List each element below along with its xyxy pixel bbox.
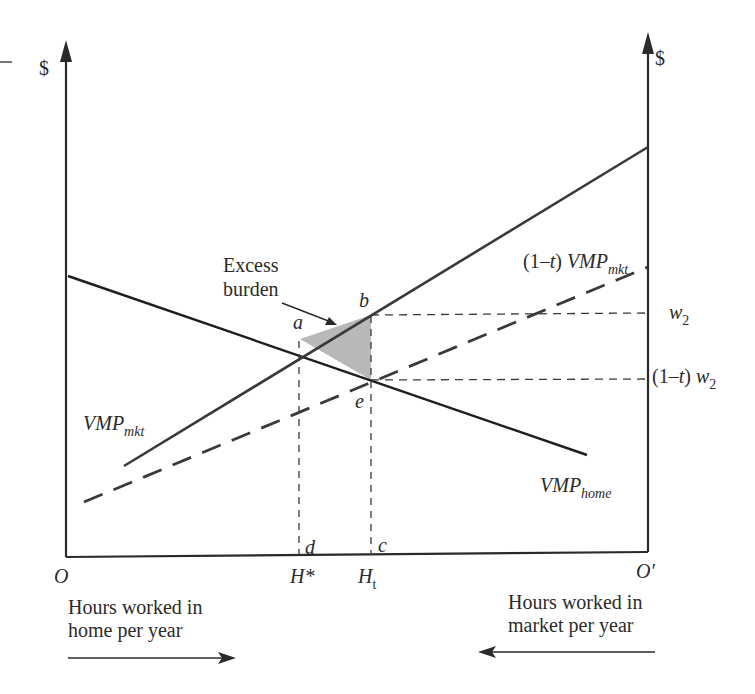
after-tax-w2-guideline [371, 379, 646, 380]
x-axis-baseline [66, 552, 648, 557]
excess-burden-label-line1: Excess [223, 255, 279, 275]
vmp-home-label: VMPhome [540, 475, 611, 495]
market-hours-label-line1: Hours worked in [508, 592, 642, 612]
w2-label: w2 [669, 302, 689, 322]
h-star-label: H* [290, 566, 314, 586]
excess-burden-label-line2: burden [223, 279, 279, 299]
vmp-mkt-label: VMPmkt [83, 413, 144, 433]
market-hours-label-line2: market per year [508, 615, 633, 635]
left-y-axis [60, 40, 72, 557]
after-tax-w2-label: (1–t) w2 [652, 366, 716, 386]
diagram-canvas [0, 0, 755, 694]
origin-left-label: O [54, 566, 68, 586]
home-hours-label-line1: Hours worked in [68, 597, 202, 617]
right-axis-dollar-label: $ [655, 48, 665, 68]
point-c-label: c [378, 535, 387, 555]
w2-guideline [371, 313, 646, 315]
vmp-mkt-curve [124, 147, 648, 466]
after-tax-vmp-mkt-label: (1–t) VMPmkt [523, 251, 628, 271]
vmp-home-curve [68, 276, 587, 455]
excess-burden-pointer [282, 303, 337, 325]
right-y-axis [642, 32, 654, 552]
origin-right-label: O′ [636, 561, 655, 581]
point-d-label: d [305, 537, 315, 557]
point-a-label: a [293, 312, 303, 332]
market-hours-arrow [478, 646, 655, 658]
left-axis-dollar-label: $ [39, 58, 49, 78]
point-b-label: b [359, 290, 369, 310]
h-t-label: Ht [358, 566, 376, 586]
home-hours-label-line2: home per year [68, 620, 182, 640]
point-e-label: e [355, 391, 364, 411]
home-hours-arrow [68, 652, 236, 664]
